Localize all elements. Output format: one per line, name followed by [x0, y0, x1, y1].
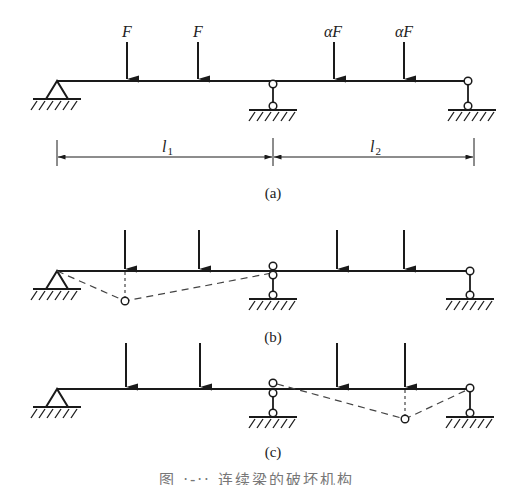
link-support-icon: [249, 80, 297, 121]
panel-b: (b): [31, 230, 494, 346]
span-label: l1: [162, 138, 173, 157]
panel-label: (b): [264, 329, 282, 346]
mechanism-dashed-line: [57, 271, 272, 301]
continuous-beam-diagram: F F αF αF l1 l2 (a): [0, 0, 513, 485]
load-label: F: [192, 23, 203, 40]
panel-label: (c): [265, 444, 282, 461]
pin-support-icon: [31, 271, 81, 300]
panel-label: (a): [265, 185, 282, 202]
load-label: F: [121, 23, 132, 40]
panel-a: F F αF αF l1 l2 (a): [31, 23, 496, 202]
link-support-icon: [249, 262, 297, 310]
span-label: l2: [370, 138, 381, 157]
figure-caption: 图 ·-·· 连续梁的破坏机构: [0, 468, 513, 485]
pin-support-icon: [31, 389, 81, 418]
link-support-icon: [446, 384, 494, 428]
dimension-line: [57, 138, 474, 166]
plastic-hinge-icon: [121, 297, 129, 305]
panel-c: (c): [31, 343, 494, 461]
plastic-hinge-icon: [401, 415, 409, 423]
link-support-icon: [448, 77, 496, 121]
pin-support-icon: [31, 81, 81, 110]
link-support-icon: [446, 267, 494, 310]
link-support-icon: [249, 379, 297, 428]
load-label: αF: [324, 23, 342, 40]
load-label: αF: [395, 23, 413, 40]
